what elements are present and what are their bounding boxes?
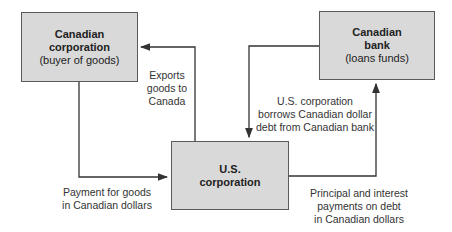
node-title: corporation <box>199 176 260 189</box>
node-title: corporation <box>49 41 110 54</box>
exports-label: Exports goods to Canada <box>141 69 193 108</box>
us-corporation-node: U.S. corporation <box>171 141 289 210</box>
node-title: Canadian <box>55 28 105 41</box>
borrows-label: U.S. corporation borrows Canadian dollar… <box>254 95 376 134</box>
node-title: bank <box>364 39 390 52</box>
canadian-bank-node: Canadian bank (loans funds) <box>319 11 435 80</box>
payment-label: Payment for goods in Canadian dollars <box>52 186 162 212</box>
node-subtitle: (loans funds) <box>345 52 409 65</box>
node-subtitle: (buyer of goods) <box>39 54 119 67</box>
principal-label: Principal and interest payments on debt … <box>300 187 418 226</box>
canadian-corporation-node: Canadian corporation (buyer of goods) <box>21 12 138 82</box>
node-title: Canadian <box>352 26 402 39</box>
node-title: U.S. <box>219 163 240 176</box>
